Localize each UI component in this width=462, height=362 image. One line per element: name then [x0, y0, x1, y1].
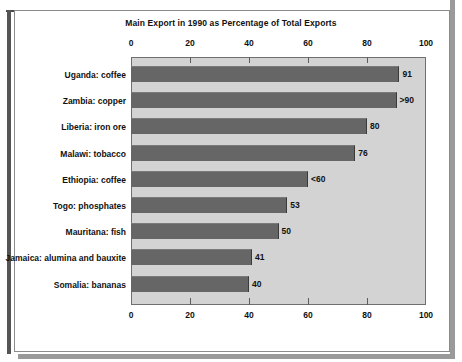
bar-row — [131, 145, 426, 161]
x-tick-label: 80 — [362, 310, 371, 320]
bar-row — [131, 92, 426, 108]
category-label: Uganda: coffee — [2, 70, 126, 80]
x-tick-label: 100 — [419, 310, 433, 320]
bar — [131, 118, 367, 134]
bar-value-label: >90 — [400, 95, 414, 105]
bar-value-label: 91 — [402, 69, 411, 79]
bar-row — [131, 171, 426, 187]
bar — [131, 145, 355, 161]
x-tick-label: 20 — [185, 310, 194, 320]
x-tick-label: 60 — [303, 310, 312, 320]
category-label: Ethiopia: coffee — [2, 175, 126, 185]
bar-value-label: 80 — [370, 121, 379, 131]
category-label: Liberia: iron ore — [2, 122, 126, 132]
category-label: Somalia: bananas — [2, 280, 126, 290]
bar-value-label: 50 — [282, 226, 291, 236]
bar — [131, 171, 308, 187]
x-tick-mark — [190, 298, 191, 305]
x-tick-label: 40 — [244, 38, 253, 48]
category-label: Malawi: tobacco — [2, 149, 126, 159]
frame-shadow-right — [450, 0, 455, 356]
x-axis-top: 020406080100 — [131, 38, 426, 52]
chart-title: Main Export in 1990 as Percentage of Tot… — [0, 18, 462, 28]
x-tick-label: 0 — [129, 310, 134, 320]
frame-shadow-bottom — [18, 354, 455, 359]
x-tick-mark — [308, 57, 309, 63]
bar — [131, 66, 399, 82]
x-tick-mark — [367, 57, 368, 63]
x-axis-bottom: 020406080100 — [131, 310, 426, 324]
bar-value-label: 40 — [252, 279, 261, 289]
x-tick-mark — [249, 298, 250, 305]
x-tick-mark — [308, 298, 309, 305]
category-label: Jamaica: alumina and bauxite — [2, 253, 126, 263]
bar-row — [131, 276, 426, 292]
bar-value-label: 76 — [358, 148, 367, 158]
bar — [131, 276, 249, 292]
bar-row — [131, 223, 426, 239]
category-label: Zambia: copper — [2, 96, 126, 106]
x-tick-label: 0 — [129, 38, 134, 48]
bar-value-label: 53 — [290, 200, 299, 210]
x-tick-label: 80 — [362, 38, 371, 48]
x-tick-label: 100 — [419, 38, 433, 48]
bar-row — [131, 197, 426, 213]
bar — [131, 92, 397, 108]
bar-row — [131, 249, 426, 265]
bar-value-label: 41 — [255, 252, 264, 262]
x-tick-label: 40 — [244, 310, 253, 320]
bar-row — [131, 66, 426, 82]
x-tick-label: 20 — [185, 38, 194, 48]
bar-row — [131, 118, 426, 134]
bar-value-label: <60 — [311, 174, 325, 184]
x-tick-mark — [249, 57, 250, 63]
category-label: Mauritana: fish — [2, 227, 126, 237]
chart-page: Main Export in 1990 as Percentage of Tot… — [0, 0, 462, 362]
category-label: Togo: phosphates — [2, 201, 126, 211]
bar — [131, 249, 252, 265]
x-tick-label: 60 — [303, 38, 312, 48]
x-tick-mark — [367, 298, 368, 305]
bar — [131, 197, 287, 213]
x-tick-mark — [190, 57, 191, 63]
bar — [131, 223, 279, 239]
